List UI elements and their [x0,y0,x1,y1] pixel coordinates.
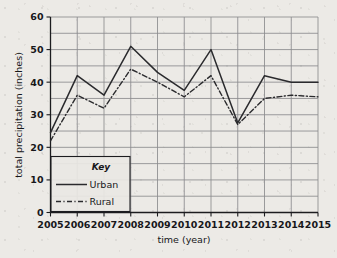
x-tick-label: 2012 [225,219,251,230]
legend-label-urban: Urban [90,179,119,190]
y-tick-label: 0 [37,207,44,218]
chart-page: 0102030405060 20052006200720082009201020… [0,0,337,258]
y-tick-label: 30 [30,109,44,120]
y-tick-label: 50 [30,44,44,55]
x-tick-label: 2009 [144,219,170,230]
x-tick-label: 2007 [91,219,117,230]
x-axis-tick-labels: 2005200620072008200920102011201220132014… [37,219,331,230]
precipitation-line-chart: 0102030405060 20052006200720082009201020… [0,0,337,258]
y-tick-label: 60 [30,11,44,22]
x-tick-label: 2011 [198,219,224,230]
y-tick-label: 20 [30,142,44,153]
x-tick-label: 2005 [37,219,63,230]
x-tick-label: 2008 [118,219,145,230]
y-tick-label: 40 [30,77,44,88]
x-tick-label: 2010 [171,219,198,230]
x-tick-label: 2006 [64,219,91,230]
x-tick-label: 2014 [278,219,305,230]
x-axis-title: time (year) [157,234,210,245]
y-axis-tick-labels: 0102030405060 [30,11,44,218]
legend-title: Key [92,162,112,172]
y-tick-label: 10 [30,174,44,185]
y-axis-title: total precipitation (inches) [13,52,24,178]
chart-legend: Key Urban Rural [51,157,130,212]
legend-label-rural: Rural [90,196,115,207]
x-tick-label: 2015 [305,219,331,230]
x-tick-label: 2013 [251,219,277,230]
